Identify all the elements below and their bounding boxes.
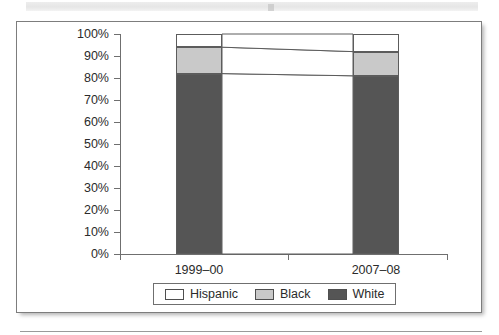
banner-truncated-glyph [268, 4, 274, 11]
page-bottom-rule [20, 331, 482, 332]
bar-segment-white [176, 74, 222, 254]
chart-legend: HispanicBlackWhite [153, 283, 396, 305]
y-axis-label: 40% [35, 160, 109, 173]
y-axis-label: 70% [35, 94, 109, 107]
bar-segment-hispanic [176, 34, 222, 47]
y-axis-label: 20% [35, 204, 109, 217]
bar-segment-hispanic [353, 34, 399, 52]
chart-figure-frame: 0%10%20%30%40%50%60%70%80%90%100% 1999–0… [16, 21, 482, 313]
y-axis-label: 0% [35, 248, 109, 261]
x-axis-label: 2007–08 [316, 264, 436, 277]
x-tick-mark [120, 254, 121, 260]
legend-label: White [353, 288, 385, 301]
y-tick-mark [114, 232, 120, 233]
y-axis-label: 90% [35, 50, 109, 63]
bar-segment-black [353, 52, 399, 76]
bar-segment-white [353, 76, 399, 254]
legend-item-black: Black [255, 288, 311, 301]
legend-swatch-hispanic [165, 289, 184, 300]
y-tick-mark [114, 56, 120, 57]
y-axis-label: 100% [35, 28, 109, 41]
legend-item-white: White [328, 288, 385, 301]
y-axis-label: 60% [35, 116, 109, 129]
y-tick-mark [114, 100, 120, 101]
y-axis-label: 80% [35, 72, 109, 85]
y-tick-mark [114, 144, 120, 145]
chart-plot-area: 0%10%20%30%40%50%60%70%80%90%100% 1999–0… [17, 22, 483, 314]
x-tick-mark [447, 254, 448, 260]
y-axis-label: 30% [35, 182, 109, 195]
legend-label: Black [280, 288, 311, 301]
y-axis-line [120, 34, 121, 255]
connector-band-white [222, 74, 353, 254]
legend-item-hispanic: Hispanic [165, 288, 238, 301]
connector-band-black [222, 47, 353, 76]
legend-swatch-white [328, 289, 347, 300]
x-axis-line [120, 254, 447, 255]
page-top-banner [26, 2, 478, 11]
bar-segment-black [176, 47, 222, 73]
y-tick-mark [114, 188, 120, 189]
connector-band-hispanic [222, 34, 353, 52]
y-tick-mark [114, 78, 120, 79]
y-axis-label: 10% [35, 226, 109, 239]
legend-label: Hispanic [190, 288, 238, 301]
y-tick-mark [114, 34, 120, 35]
x-axis-label: 1999–00 [139, 264, 259, 277]
y-tick-mark [114, 210, 120, 211]
y-axis-label: 50% [35, 138, 109, 151]
y-tick-mark [114, 166, 120, 167]
x-tick-mark [288, 254, 289, 260]
legend-swatch-black [255, 289, 274, 300]
y-tick-mark [114, 122, 120, 123]
